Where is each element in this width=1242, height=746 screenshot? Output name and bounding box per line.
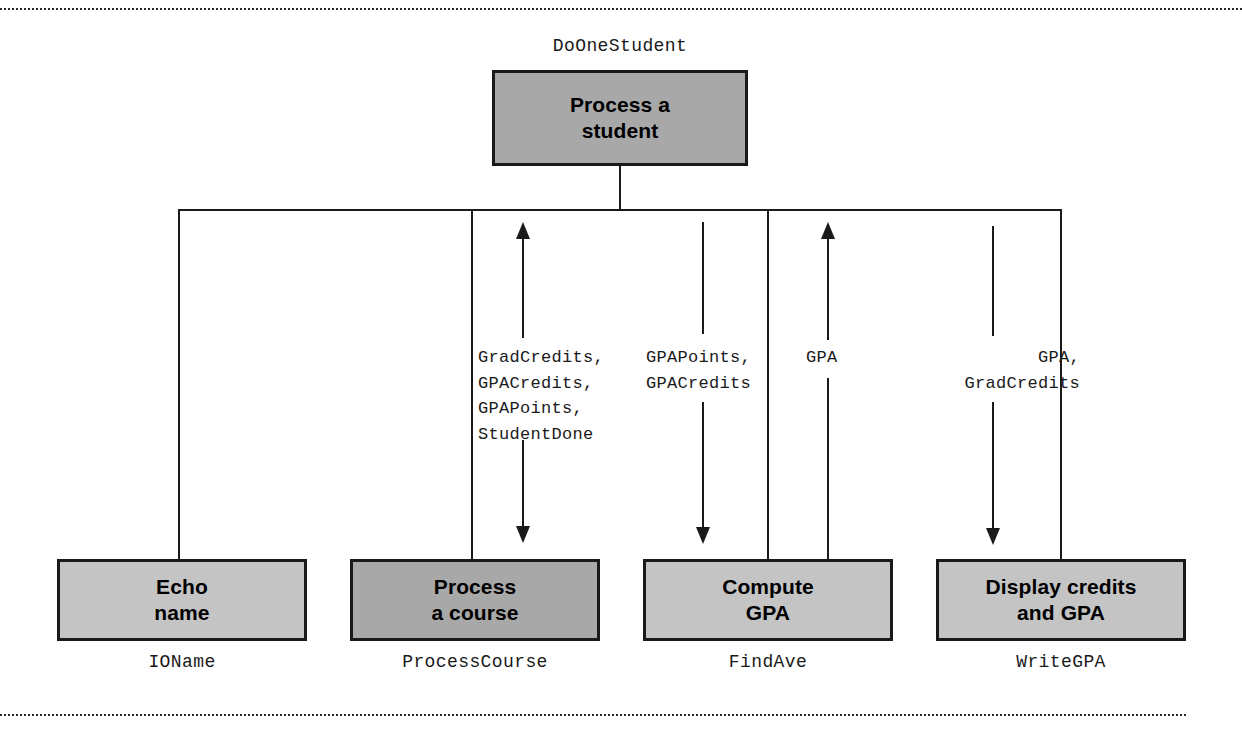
coupler-line-findave-return-top — [827, 238, 829, 340]
module-label-line1: Echo — [156, 575, 208, 598]
module-label-line1: Process — [434, 575, 516, 598]
page-rule-top — [0, 8, 1242, 10]
module-label-line2: and GPA — [1017, 601, 1105, 624]
module-box-process-a-course[interactable]: Process a course — [350, 559, 600, 641]
connector-drop-processcourse — [471, 209, 473, 559]
couple-label-findave-in: GPAPoints, GPACredits — [646, 345, 776, 396]
module-caption-ioname: IOName — [57, 652, 307, 672]
arrowhead-down-processcourse-in — [516, 526, 530, 543]
module-label-line2: GPA — [746, 601, 790, 624]
coupler-line-findave-return-bottom — [827, 378, 829, 560]
coupler-line-findave-in-bottom — [702, 402, 704, 530]
module-label-line2: a course — [431, 601, 518, 624]
arrowhead-down-findave-in — [696, 527, 710, 544]
module-caption-writegpa: WriteGPA — [936, 652, 1186, 672]
module-label-line1: Process a — [570, 93, 670, 116]
module-label-display-credits-and-gpa: Display credits and GPA — [980, 574, 1143, 625]
coupler-line-writegpa-in-bottom — [992, 402, 994, 532]
coupler-line-processcourse-return — [522, 238, 524, 338]
module-label-compute-gpa: Compute GPA — [716, 574, 820, 625]
module-label-line1: Compute — [722, 575, 814, 598]
module-label-line2: student — [582, 119, 659, 142]
structure-chart-diagram: DoOneStudent Process a student GradCredi… — [0, 0, 1242, 746]
module-caption-doonestudent: DoOneStudent — [490, 36, 750, 56]
coupler-line-processcourse-in — [522, 440, 524, 528]
module-label-line1: Display credits — [986, 575, 1137, 598]
arrowhead-down-writegpa-in — [986, 528, 1000, 545]
module-caption-processcourse: ProcessCourse — [350, 652, 600, 672]
module-label-process-a-student: Process a student — [564, 92, 676, 143]
couple-label-findave-out: GPA — [806, 345, 876, 371]
module-label-line2: name — [154, 601, 209, 624]
connector-drop-ioname — [178, 209, 180, 559]
coupler-line-findave-in-top — [702, 222, 704, 334]
coupler-line-writegpa-in-top — [992, 226, 994, 336]
module-box-compute-gpa[interactable]: Compute GPA — [643, 559, 893, 641]
module-box-process-a-student[interactable]: Process a student — [492, 70, 748, 166]
module-label-echo-name: Echo name — [148, 574, 215, 625]
couple-label-processcourse: GradCredits, GPACredits, GPAPoints, Stud… — [478, 345, 628, 447]
module-box-echo-name[interactable]: Echo name — [57, 559, 307, 641]
couple-label-writegpa-in: GPA, GradCredits — [900, 345, 1080, 396]
module-label-process-a-course: Process a course — [425, 574, 524, 625]
module-caption-findave: FindAve — [643, 652, 893, 672]
arrowhead-up-findave-return — [821, 222, 835, 239]
arrowhead-up-processcourse-return — [516, 222, 530, 239]
connector-root-stem — [619, 166, 621, 210]
page-rule-bottom — [0, 714, 1186, 716]
module-box-display-credits-and-gpa[interactable]: Display credits and GPA — [936, 559, 1186, 641]
connector-horizontal-bus — [178, 209, 1062, 211]
